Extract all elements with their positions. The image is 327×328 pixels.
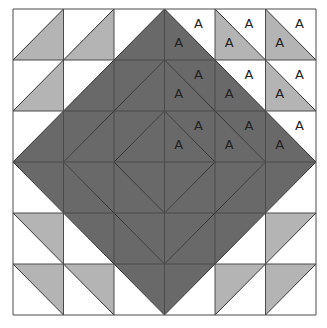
label-upper: A [244, 118, 253, 133]
label-upper: A [194, 118, 203, 133]
label-upper: A [295, 67, 304, 82]
label-lower: A [275, 35, 284, 50]
label-lower: A [174, 86, 183, 101]
label-upper: A [194, 67, 203, 82]
quilt-diagram: AAAAAAAAAAAAAAAAAA [0, 0, 327, 328]
triangle-grid-diagram: AAAAAAAAAAAAAAAAAA [0, 0, 327, 328]
label-upper: A [295, 118, 304, 133]
label-lower: A [174, 137, 183, 152]
label-lower: A [225, 86, 234, 101]
label-upper: A [194, 16, 203, 31]
label-lower: A [275, 86, 284, 101]
label-upper: A [295, 16, 304, 31]
label-upper: A [244, 16, 253, 31]
label-upper: A [244, 67, 253, 82]
label-lower: A [174, 35, 183, 50]
label-lower: A [225, 137, 234, 152]
label-lower: A [225, 35, 234, 50]
label-lower: A [275, 137, 284, 152]
